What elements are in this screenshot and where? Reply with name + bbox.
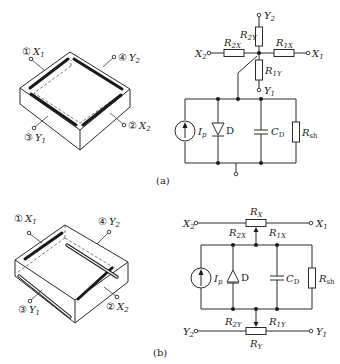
panel-b-circuit: RX X2 X1 R2X R1X Ip D CD Rsh R2Y R1Y Y2 … <box>153 206 335 358</box>
terminal-y1 <box>257 88 261 92</box>
pin-x1 <box>29 57 33 61</box>
electrode-x1 <box>25 233 62 259</box>
psd-figure: ①X1 ④Y2 ③Y1 ②X2 <box>0 0 340 364</box>
caption-b: (b) <box>153 347 167 358</box>
terminal-x2 <box>194 221 198 225</box>
label-term-x2: X2 <box>182 218 195 231</box>
label-y2: ④Y2 <box>98 216 121 229</box>
label-ip: Ip <box>213 273 223 286</box>
terminal-y2 <box>194 329 198 333</box>
wiper-arrow-icon <box>254 322 259 327</box>
electrode-x2 <box>78 268 112 299</box>
electrode-y2 <box>74 59 122 89</box>
label-rsh: Rsh <box>318 273 335 286</box>
resistor-rsh <box>309 268 316 288</box>
pin-y2 <box>107 230 111 234</box>
electrode-x2 <box>83 95 121 125</box>
label-ip: Ip <box>197 126 207 139</box>
label-cd: CD <box>271 126 285 139</box>
label-ry: RY <box>249 338 264 351</box>
diode-symbol <box>227 270 239 282</box>
label-d: D <box>226 125 234 136</box>
label-x2: ②X2 <box>106 301 129 314</box>
resistor-r1y <box>256 60 263 80</box>
pin-x1 <box>27 231 31 235</box>
resistor-r1x <box>274 50 294 57</box>
lead-x1 <box>30 234 42 243</box>
electrode-y2 <box>67 245 117 277</box>
label-term-y1: Y1 <box>316 326 327 339</box>
label-d: D <box>241 272 249 283</box>
device-hidden-edge <box>65 238 118 270</box>
terminal-x2 <box>207 51 211 55</box>
pin-x2 <box>122 123 126 127</box>
junction <box>257 51 261 55</box>
pin-y1 <box>32 126 36 130</box>
label-term-x1: X1 <box>315 218 328 231</box>
label-rsh: Rsh <box>301 127 318 140</box>
terminal-x1 <box>306 51 310 55</box>
resistor-rx <box>246 220 266 227</box>
wire-to-anode <box>238 56 257 99</box>
terminal-x1 <box>309 221 313 225</box>
terminal-y1 <box>309 329 313 333</box>
resistor-ry <box>246 328 266 335</box>
label-y1: ③Y1 <box>24 132 46 145</box>
electrode-y1 <box>31 94 76 125</box>
lead-y1 <box>35 116 48 127</box>
label-r2y: R2Y <box>224 316 243 329</box>
label-term-x2: X2 <box>194 48 207 61</box>
pin-y1 <box>28 299 32 303</box>
pin-x2 <box>115 295 119 299</box>
diode-symbol <box>212 123 224 135</box>
panel-a-circuit: Y2 R2Y R2X R1X X2 X1 R1Y Y1 Ip D CD Rsh … <box>156 10 324 186</box>
lead-y2 <box>97 233 108 244</box>
label-term-y2: Y2 <box>264 10 276 23</box>
lead-x2 <box>104 287 116 296</box>
label-term-y2: Y2 <box>183 326 195 339</box>
arrow-up-icon <box>183 122 188 128</box>
label-x2: ②X2 <box>128 120 151 133</box>
label-rx: RX <box>249 206 264 219</box>
label-r1y: R1Y <box>268 316 287 329</box>
label-x1: ①X1 <box>22 46 45 59</box>
junction <box>236 97 240 101</box>
label-x1: ①X1 <box>14 213 37 226</box>
label-y1: ③Y1 <box>18 304 40 317</box>
arrow-up-icon <box>199 269 204 275</box>
junction <box>254 243 258 247</box>
label-r1x: R1X <box>268 227 287 240</box>
label-r1x: R1X <box>275 37 294 50</box>
resistor-r2x <box>224 50 244 57</box>
pin-y2 <box>112 55 116 59</box>
panel-a-device: ①X1 ④Y2 ③Y1 ②X2 <box>20 46 151 150</box>
lead-x1 <box>32 60 44 70</box>
panel-b-device: ①X1 ④Y2 ③Y1 ②X2 <box>14 213 129 323</box>
label-term-x1: X1 <box>311 48 324 61</box>
caption-a: (a) <box>156 175 170 186</box>
label-term-y1: Y1 <box>264 85 275 98</box>
label-r2x: R2X <box>228 227 247 240</box>
terminal-y2 <box>257 13 261 17</box>
label-cd: CD <box>286 273 300 286</box>
label-y2: ④Y2 <box>118 52 141 65</box>
label-r1y: R1Y <box>264 65 283 78</box>
resistor-rsh <box>293 122 300 142</box>
lead-y2 <box>103 58 113 67</box>
wiper-arrow-icon <box>254 227 259 232</box>
terminal-common <box>234 172 238 176</box>
